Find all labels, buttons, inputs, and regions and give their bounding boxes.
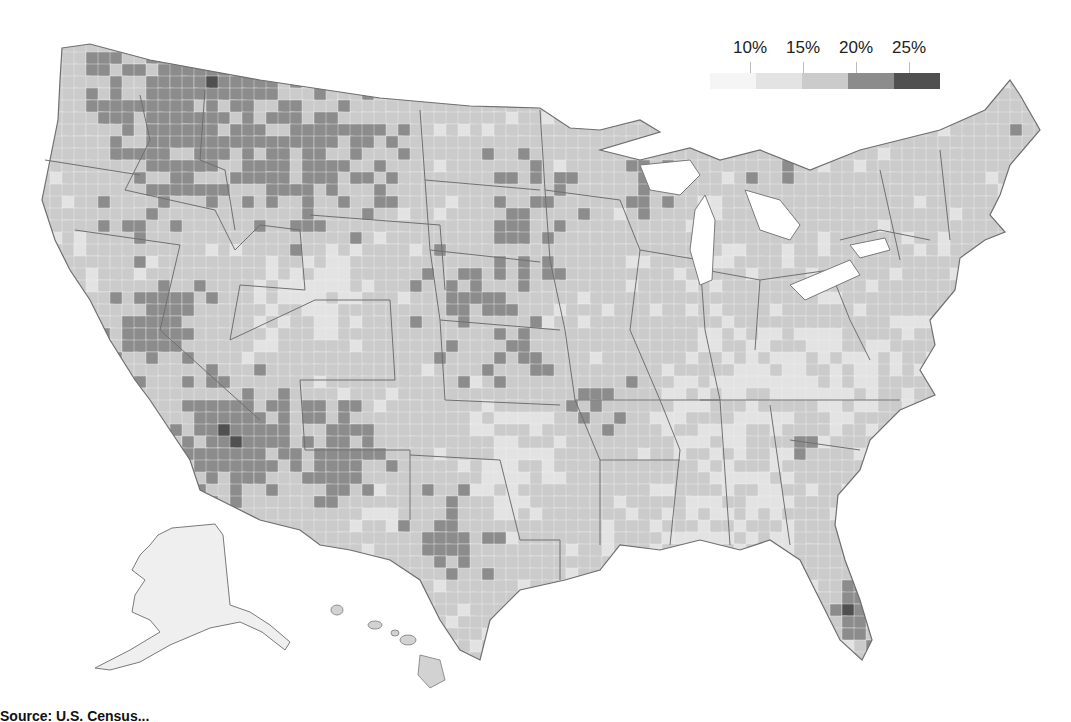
county-tile: [950, 316, 966, 330]
county-tile: [938, 388, 951, 403]
county-tile: [950, 520, 967, 532]
county-tile: [1010, 172, 1022, 188]
county-tile: [266, 436, 279, 449]
county-tile: [974, 640, 986, 657]
county-tile: [578, 628, 594, 643]
county-tile: [890, 484, 905, 501]
county-tile: [638, 88, 652, 101]
county-tile: [638, 676, 652, 690]
county-tile: [362, 568, 376, 582]
county-tile: [350, 556, 362, 568]
county-tile: [1010, 508, 1025, 524]
county-tile: [986, 652, 1001, 665]
county-tile: [386, 592, 402, 606]
county-tile: [938, 340, 954, 355]
county-tile: [806, 124, 821, 138]
county-tile: [782, 640, 798, 652]
county-tile: [710, 556, 724, 568]
county-tile: [470, 52, 485, 69]
county-tile: [374, 64, 390, 79]
county-tile: [338, 400, 350, 413]
county-tile: [650, 292, 663, 304]
county-tile: [398, 388, 410, 400]
county-tile: [398, 604, 410, 617]
county-tile: [686, 568, 702, 584]
county-tile: [578, 652, 592, 666]
county-tile: [314, 664, 327, 678]
county-tile: [866, 484, 880, 498]
county-tile: [482, 64, 494, 80]
county-tile: [74, 424, 91, 437]
county-tile: [986, 484, 1003, 498]
county-tile: [158, 496, 175, 508]
county-tile: [1022, 520, 1037, 537]
county-tile: [602, 664, 619, 679]
county-tile: [38, 76, 55, 93]
county-tile: [890, 592, 902, 605]
county-tile: [854, 568, 869, 585]
county-tile: [890, 436, 907, 448]
county-tile: [662, 568, 677, 581]
county-tile: [710, 52, 727, 67]
county-tile: [806, 148, 819, 162]
county-tile: [338, 580, 350, 592]
county-tile: [566, 76, 578, 90]
county-tile: [830, 244, 843, 256]
county-tile: [794, 604, 811, 620]
county-tile: [50, 640, 67, 655]
county-tile: [302, 652, 319, 664]
county-tile: [602, 592, 618, 608]
county-tile: [194, 664, 211, 680]
county-tile: [50, 496, 67, 508]
county-tile: [398, 40, 414, 57]
county-tile: [686, 556, 700, 569]
county-tile: [686, 76, 700, 93]
county-tile: [62, 304, 78, 319]
county-tile: [1010, 448, 1027, 462]
county-tile: [902, 556, 915, 573]
county-tile: [866, 532, 882, 546]
county-tile: [518, 100, 530, 113]
county-tile: [482, 664, 494, 679]
county-tile: [1010, 64, 1024, 77]
county-tile: [866, 460, 881, 477]
county-tile: [794, 136, 808, 150]
county-tile: [86, 556, 98, 568]
county-tile: [86, 388, 98, 400]
county-tile: [86, 652, 101, 666]
county-tile: [470, 628, 483, 641]
county-tile: [806, 616, 819, 630]
county-tile: [938, 460, 955, 472]
legend: 10% 15% 20% 25%: [728, 38, 940, 94]
legend-label-20: 20%: [839, 38, 873, 58]
county-tile: [278, 316, 291, 329]
county-tile: [422, 52, 436, 69]
county-tile: [890, 124, 902, 140]
county-tile: [974, 292, 990, 304]
county-tile: [770, 580, 787, 593]
county-tile: [194, 508, 206, 521]
county-tile: [146, 484, 163, 496]
county-tile: [686, 604, 701, 620]
county-tile: [974, 508, 990, 522]
county-tile: [902, 520, 916, 533]
county-tile: [230, 628, 247, 645]
county-tile: [482, 76, 494, 93]
county-tile: [398, 64, 410, 81]
county-tile: [1022, 64, 1038, 81]
county-tile: [554, 580, 570, 597]
county-tile: [626, 244, 639, 256]
county-tile: [938, 652, 951, 666]
county-tile: [110, 556, 126, 572]
county-tile: [98, 412, 112, 428]
county-tile: [998, 364, 1010, 377]
county-tile: [782, 100, 799, 116]
county-tile: [1034, 256, 1048, 268]
county-tile: [722, 652, 736, 664]
county-tile: [194, 280, 206, 292]
county-tile: [626, 232, 638, 245]
county-tile: [170, 508, 182, 523]
county-tile: [278, 592, 290, 604]
county-tile: [266, 388, 279, 401]
county-tile: [326, 556, 338, 569]
